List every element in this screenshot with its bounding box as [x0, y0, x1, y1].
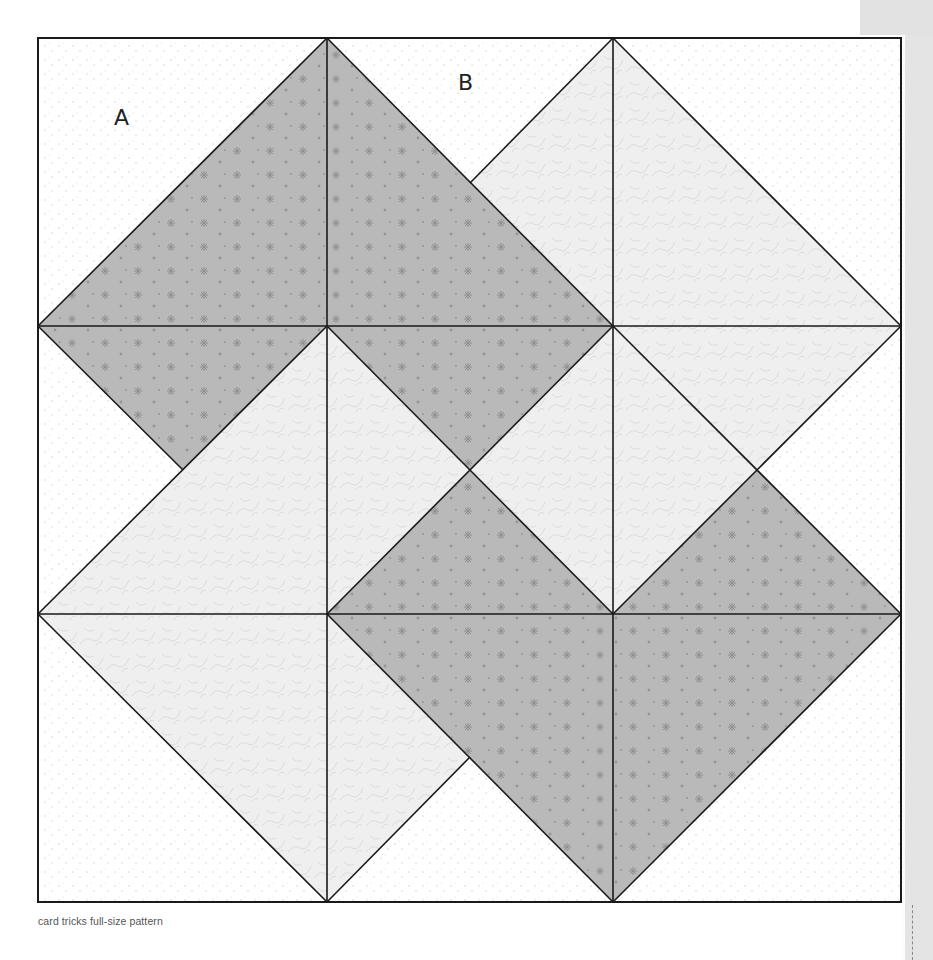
quilt-block-pattern: [0, 0, 933, 960]
pattern-caption: card tricks full-size pattern: [38, 915, 163, 927]
cut-line: [912, 905, 913, 960]
piece-label-a: A: [114, 105, 129, 130]
piece-label-b: B: [458, 70, 473, 95]
